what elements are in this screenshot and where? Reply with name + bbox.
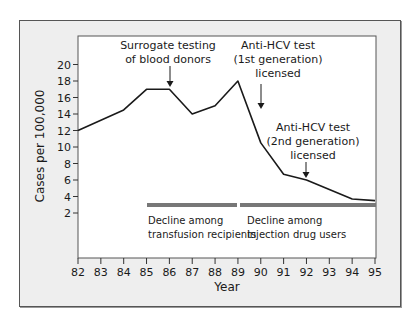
x-tick-label: 92 [299, 266, 313, 279]
period-label-transfusion-line2: transfusion recipients [148, 229, 256, 240]
x-tick-label: 87 [185, 266, 199, 279]
y-tick-label: 6 [64, 174, 71, 187]
x-tick-label: 89 [231, 266, 245, 279]
x-tick-label: 94 [345, 266, 359, 279]
period-label-transfusion-line1: Decline among [148, 215, 223, 226]
period-label-idu-line1: Decline among [247, 215, 322, 226]
x-tick-label: 83 [94, 266, 108, 279]
y-tick-label: 20 [57, 59, 71, 72]
annotation-hcv2-line3: licensed [290, 149, 335, 162]
period-label-idu-line2: injection drug users [247, 229, 346, 240]
x-tick-label: 82 [71, 266, 85, 279]
x-tick-label: 86 [162, 266, 176, 279]
annotation-hcv1-line1: Anti-HCV test [241, 39, 316, 52]
y-tick-label: 8 [64, 158, 71, 171]
x-tick-label: 88 [208, 266, 222, 279]
y-tick-label: 14 [57, 108, 71, 121]
y-tick-label: 2 [64, 207, 71, 220]
y-tick-label: 10 [57, 141, 71, 154]
x-tick-label: 95 [368, 266, 382, 279]
x-tick-label: 84 [117, 266, 131, 279]
line-chart: 2468101214161820 82838485868788899091929… [0, 0, 413, 319]
x-tick-label: 85 [140, 266, 154, 279]
annotation-hcv2-line2: (2nd generation) [267, 135, 360, 148]
annotation-hcv1-line3: licensed [255, 67, 300, 80]
y-tick-label: 16 [57, 92, 71, 105]
x-tick-label: 90 [254, 266, 268, 279]
x-axis: 8283848586878889909192939495 [71, 258, 382, 279]
y-axis-title: Cases per 100,000 [33, 90, 47, 203]
period-bar-idu [240, 203, 376, 207]
y-axis: 2468101214161820 [57, 59, 78, 221]
annotation-surrogate-line2: of blood donors [125, 53, 211, 66]
y-tick-label: 12 [57, 125, 71, 138]
annotation-hcv2-line1: Anti-HCV test [276, 121, 351, 134]
y-tick-label: 18 [57, 75, 71, 88]
annotation-hcv1-line2: (1st generation) [234, 53, 323, 66]
x-tick-label: 93 [322, 266, 336, 279]
period-bar-transfusion [147, 203, 237, 207]
y-tick-label: 4 [64, 191, 71, 204]
x-axis-title: Year [213, 280, 239, 294]
annotation-surrogate-line1: Surrogate testing [120, 39, 216, 52]
x-tick-label: 91 [277, 266, 291, 279]
